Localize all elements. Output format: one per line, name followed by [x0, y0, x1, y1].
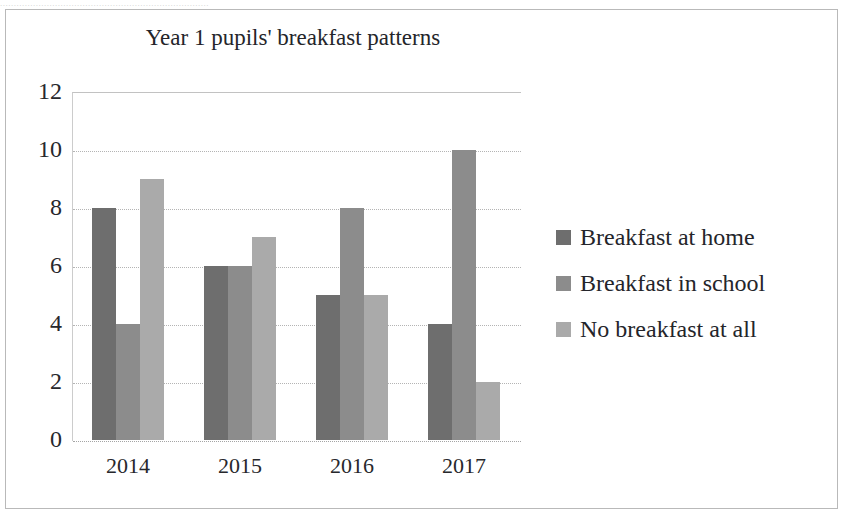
- chart-legend: Breakfast at homeBreakfast in schoolNo b…: [556, 214, 842, 352]
- legend-label: Breakfast at home: [580, 223, 755, 251]
- bars-layer: [72, 92, 520, 440]
- x-axis-tick-label: 2014: [72, 452, 184, 480]
- y-axis-tick-label: 10: [0, 137, 62, 161]
- legend-swatch-icon: [556, 276, 571, 291]
- bar: [428, 324, 452, 440]
- bar: [116, 324, 140, 440]
- legend-entry: No breakfast at all: [556, 306, 842, 352]
- legend-swatch-icon: [556, 322, 571, 337]
- bar: [452, 150, 476, 440]
- legend-label: Breakfast in school: [580, 269, 765, 297]
- x-axis-tick-label: 2016: [296, 452, 408, 480]
- legend-swatch-icon: [556, 230, 571, 245]
- x-axis-tick-label: 2015: [184, 452, 296, 480]
- bar: [316, 295, 340, 440]
- y-axis-tick-label: 8: [0, 195, 62, 219]
- y-axis-tick-label: 12: [0, 79, 62, 103]
- y-axis-tick-labels: 024681012: [0, 92, 62, 440]
- legend-entry: Breakfast at home: [556, 214, 842, 260]
- bar: [228, 266, 252, 440]
- bar: [204, 266, 228, 440]
- bar: [340, 208, 364, 440]
- bar: [92, 208, 116, 440]
- bar: [476, 382, 500, 440]
- bar: [140, 179, 164, 440]
- y-axis-tick-label: 6: [0, 253, 62, 277]
- x-axis-tick-label: 2017: [408, 452, 520, 480]
- y-axis-tick-label: 4: [0, 311, 62, 335]
- bar: [252, 237, 276, 440]
- bar: [364, 295, 388, 440]
- x-axis-tick-labels: 2014201520162017: [72, 452, 520, 486]
- bar-chart-figure: Year 1 pupils' breakfast patterns 024681…: [0, 0, 848, 525]
- y-axis-tick-label: 2: [0, 369, 62, 393]
- y-axis-tick-label: 0: [0, 427, 62, 451]
- gridline: [73, 441, 521, 442]
- legend-label: No breakfast at all: [580, 315, 757, 343]
- legend-entry: Breakfast in school: [556, 260, 842, 306]
- chart-title: Year 1 pupils' breakfast patterns: [58, 24, 528, 52]
